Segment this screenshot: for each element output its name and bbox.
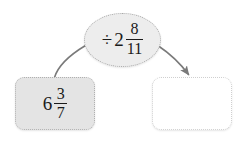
operation-whole-number: 2 [114, 30, 124, 49]
operation-to-output-arrow [159, 46, 189, 75]
diagram-canvas: ÷ 2 8 11 6 3 7 [0, 0, 244, 141]
input-numerator: 3 [56, 86, 66, 102]
input-to-operation-line [55, 46, 86, 78]
operation-expression: ÷ 2 8 11 [102, 21, 143, 57]
operation-node: ÷ 2 8 11 [84, 13, 161, 67]
input-node: 6 3 7 [15, 77, 95, 130]
divide-icon: ÷ [102, 30, 112, 49]
operation-numerator: 8 [129, 21, 139, 37]
input-whole-number: 6 [43, 94, 53, 113]
input-fraction: 3 7 [54, 86, 67, 122]
input-expression: 6 3 7 [43, 86, 68, 122]
input-denominator: 7 [56, 105, 66, 121]
operation-fraction: 8 11 [126, 21, 143, 57]
output-node[interactable] [152, 77, 232, 130]
operation-denominator: 11 [126, 41, 143, 57]
